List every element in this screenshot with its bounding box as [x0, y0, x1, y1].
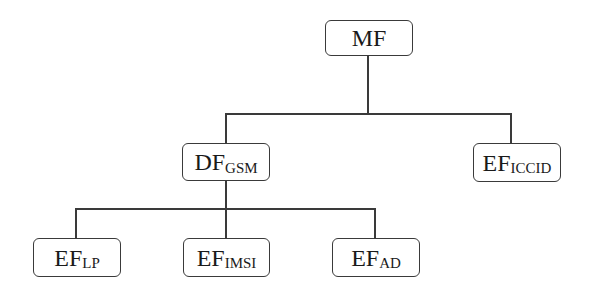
node-label: DF [194, 150, 225, 174]
node-ef-imsi: EFIMSI [183, 238, 270, 277]
connector-to-ef-lp [75, 208, 77, 238]
node-ef-lp: EFLP [33, 238, 121, 277]
connector-level1-bar [225, 113, 511, 115]
node-df-gsm: DFGSM [182, 143, 270, 181]
node-subscript: ICCID [511, 160, 552, 177]
node-label: EF [54, 246, 82, 270]
connector-to-df-gsm [225, 113, 227, 143]
node-label: EF [483, 151, 511, 175]
node-subscript: LP [82, 255, 100, 272]
connector-df-gsm-down [225, 181, 227, 238]
node-ef-ad: EFAD [332, 238, 420, 277]
node-mf: MF [325, 20, 413, 56]
connector-to-ef-iccid [510, 113, 512, 143]
node-label: MF [352, 26, 387, 50]
connector-to-ef-ad [374, 208, 376, 238]
node-ef-iccid: EFICCID [473, 143, 561, 182]
node-label: EF [197, 246, 225, 270]
connector-mf-down [367, 55, 369, 113]
connector-level2-bar [75, 208, 375, 210]
node-subscript: AD [379, 255, 401, 272]
node-subscript: GSM [225, 160, 258, 177]
node-subscript: IMSI [225, 255, 257, 272]
node-label: EF [351, 246, 379, 270]
